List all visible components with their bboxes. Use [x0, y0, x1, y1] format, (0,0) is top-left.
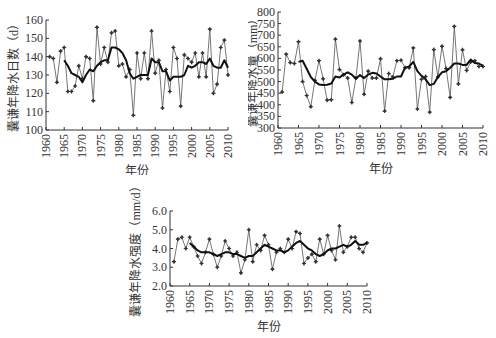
x-tick-label: 1995: [415, 132, 429, 156]
annual-series-line: [174, 226, 367, 273]
y-tick-label: 4.0: [152, 242, 167, 256]
y-axis-label: 囊谦年降水日数（d）: [6, 18, 21, 132]
moving-average-line: [299, 60, 484, 86]
x-tick-label: 1965: [57, 134, 71, 158]
annual-series-line: [282, 26, 483, 112]
annual-series-line: [50, 27, 228, 115]
x-tick-label: 2000: [185, 134, 199, 158]
x-tick-label: 2005: [456, 132, 470, 156]
x-tick-label: 1975: [333, 132, 347, 156]
x-tick-label: 1990: [281, 290, 295, 314]
x-tick-label: 2005: [203, 134, 217, 158]
x-tick-label: 1975: [94, 134, 108, 158]
chart-precipitation: 3003504004505005506006507007508001960196…: [248, 0, 496, 175]
x-tick-label: 2010: [221, 134, 235, 158]
chart-rain-days: 1001101201301401501601960196519701975198…: [0, 0, 250, 175]
x-tick-label: 2000: [321, 290, 335, 314]
y-axis-label: 囊谦年降水量（mm）: [248, 13, 260, 128]
y-tick-label: 120: [25, 86, 43, 100]
x-tick-label: 1965: [292, 132, 306, 156]
x-tick-label: 1960: [271, 132, 285, 156]
y-tick-label: 3.0: [152, 260, 167, 274]
x-tick-label: 2010: [476, 132, 490, 156]
x-axis-label: 年份: [369, 162, 393, 175]
x-tick-label: 1975: [222, 290, 236, 314]
x-tick-label: 1990: [394, 132, 408, 156]
y-tick-label: 140: [25, 50, 43, 64]
moving-average-line: [190, 241, 367, 258]
y-tick-label: 160: [25, 13, 43, 27]
x-tick-label: 1970: [75, 134, 89, 158]
x-tick-label: 1995: [166, 134, 180, 158]
x-tick-label: 1980: [353, 132, 367, 156]
y-tick-label: 6.0: [152, 204, 167, 218]
x-axis-label: 年份: [125, 164, 149, 175]
x-tick-label: 1970: [202, 290, 216, 314]
y-tick-label: 130: [25, 68, 43, 82]
y-tick-label: 5.0: [152, 223, 167, 237]
x-tick-label: 1960: [163, 290, 177, 314]
x-tick-label: 1980: [112, 134, 126, 158]
y-tick-label: 110: [25, 105, 43, 119]
x-tick-label: 1985: [262, 290, 276, 314]
y-tick-label: 150: [25, 31, 43, 45]
x-tick-label: 1965: [183, 290, 197, 314]
x-axis-label: 年份: [257, 320, 281, 334]
x-tick-label: 1995: [301, 290, 315, 314]
x-tick-label: 1960: [39, 134, 53, 158]
x-tick-label: 1970: [312, 132, 326, 156]
x-tick-label: 1980: [242, 290, 256, 314]
x-tick-label: 2010: [360, 290, 374, 314]
y-axis-label: 囊谦年降水强度（mm/d）: [128, 180, 143, 316]
x-tick-label: 2000: [435, 132, 449, 156]
chart-intensity: 2.03.04.05.06.01960196519701975198019851…: [128, 175, 378, 338]
x-tick-label: 1990: [148, 134, 162, 158]
x-tick-label: 2005: [340, 290, 354, 314]
x-tick-label: 1985: [130, 134, 144, 158]
x-tick-label: 1985: [374, 132, 388, 156]
